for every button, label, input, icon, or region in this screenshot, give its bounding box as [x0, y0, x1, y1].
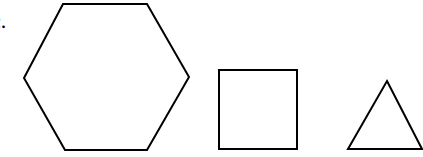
square-shape: [219, 70, 297, 149]
hexagon-shape: [24, 4, 189, 150]
triangle-shape: [348, 81, 422, 149]
shapes-diagram: [0, 0, 423, 157]
figure-canvas: c.: [0, 0, 423, 157]
